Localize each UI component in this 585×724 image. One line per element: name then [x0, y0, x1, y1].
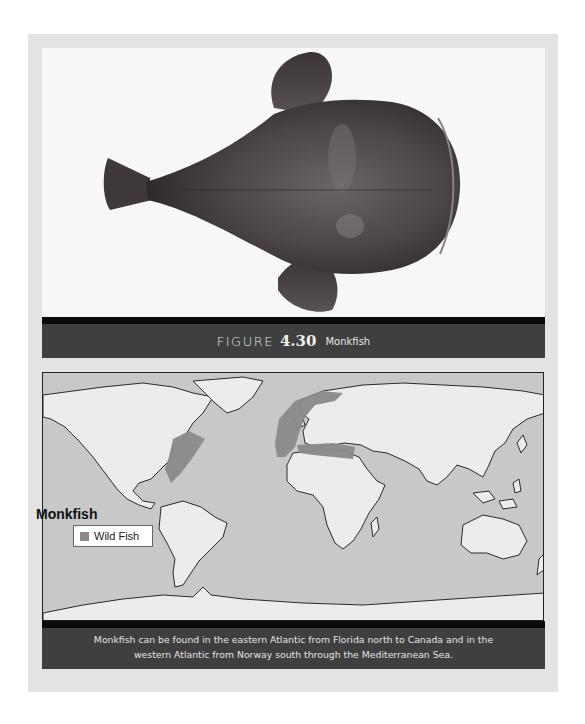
world-map-icon	[43, 373, 544, 621]
world-distribution-map	[42, 372, 544, 621]
figure-caption: FIGURE 4.30 Monkfish	[42, 324, 545, 358]
description-line-2: western Atlantic from Norway south throu…	[42, 647, 545, 662]
figure-number: 4.30	[280, 332, 317, 350]
photo-bottom-stripe	[42, 317, 545, 324]
map-legend-title: Monkfish	[36, 506, 97, 522]
figure-name: Monkfish	[325, 336, 370, 347]
description-line-1: Monkfish can be found in the eastern Atl…	[42, 632, 545, 647]
figure-label: FIGURE	[217, 334, 274, 349]
legend-item-wild-fish: Wild Fish	[94, 530, 139, 542]
monkfish-image-icon	[42, 48, 545, 317]
map-bottom-stripe	[42, 621, 545, 628]
map-description: Monkfish can be found in the eastern Atl…	[42, 628, 545, 669]
monkfish-photo	[42, 48, 545, 317]
wild-fish-swatch-icon	[80, 532, 89, 541]
map-legend: Wild Fish	[73, 525, 153, 547]
